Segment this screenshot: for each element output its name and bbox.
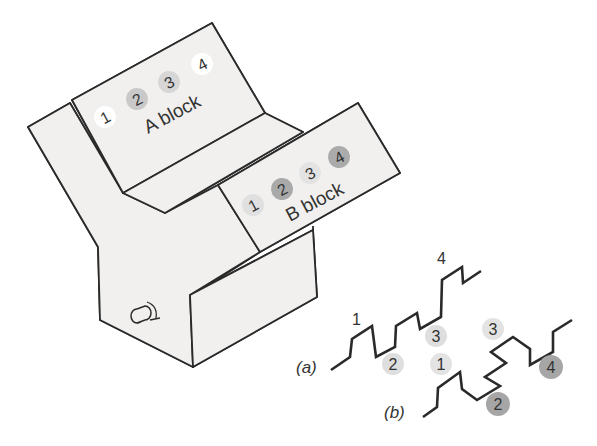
waveform-b-marker-1: 1 (430, 353, 452, 375)
svg-text:2: 2 (389, 356, 398, 373)
svg-text:3: 3 (432, 328, 441, 345)
svg-text:1: 1 (437, 356, 446, 373)
svg-text:2: 2 (494, 396, 503, 413)
svg-text:4: 4 (547, 359, 556, 376)
svg-text:3: 3 (489, 321, 498, 338)
waveform-a-marker-1: 1 (352, 311, 361, 328)
waveform-a-marker-2: 2 (382, 353, 404, 375)
waveform-b-marker-4: 4 (539, 355, 563, 379)
waveform-b-marker-3: 3 (482, 318, 504, 340)
waveform-a-marker-3: 3 (425, 325, 447, 347)
waveform-b-marker-2: 2 (486, 392, 510, 416)
waveform-b-label: (b) (384, 403, 405, 422)
waveform-a-marker-4: 4 (437, 250, 446, 267)
waveform-a-label: (a) (296, 358, 317, 377)
terminal-block-diagram: 1 2 3 4 A block 1 2 3 4 B block (a) 1 2 … (0, 0, 597, 446)
